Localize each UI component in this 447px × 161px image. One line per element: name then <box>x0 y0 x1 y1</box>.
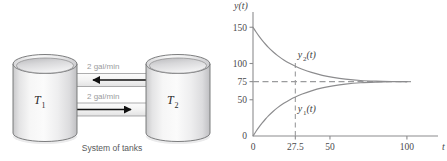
diagram-caption: System of tanks <box>82 143 142 153</box>
y-axis-tick-label: 150 <box>233 23 248 33</box>
curve-y2 <box>253 27 407 81</box>
pipe-top-flow-label: 2 gal/min <box>87 62 119 71</box>
pipe-top <box>71 74 153 87</box>
tank-left: T 1 <box>13 55 77 145</box>
y-axis-tick-label: 75 <box>238 77 248 87</box>
solution-plot-svg: 05075100150027.550100 y(t) t y 2 (t) y 1… <box>224 0 447 161</box>
tank-left-label-subscript: 1 <box>42 101 46 110</box>
tank-left-opening <box>17 58 74 73</box>
pipe-bottom <box>71 103 153 116</box>
y-axis-tick-label: 50 <box>238 95 248 105</box>
pipe-bottom-flow-label: 2 gal/min <box>87 92 119 101</box>
curve-annotation-y2: y 2 (t) <box>297 49 317 63</box>
tank-right: T 2 <box>146 55 210 145</box>
figure-container: T 1 T 2 2 gal/min 2 gal/min System of ta… <box>0 0 447 161</box>
y-axis-tick-label: 100 <box>233 59 248 69</box>
x-axis-label: t <box>442 141 445 152</box>
x-axis-tick-label: 100 <box>400 142 415 152</box>
tank-right-label-subscript: 2 <box>175 101 179 110</box>
curve-label-y1-suffix: (t) <box>306 103 316 115</box>
tank-diagram-panel: T 1 T 2 2 gal/min 2 gal/min System of ta… <box>0 0 224 161</box>
tank-right-opening <box>150 58 207 73</box>
y-axis-tick-label: 0 <box>242 131 247 141</box>
curve-label-y2: y <box>297 49 303 60</box>
curve-annotation-y1: y 1 (t) <box>297 103 317 117</box>
x-axis-tick-label: 27.5 <box>287 142 304 152</box>
plot-axes <box>250 12 439 140</box>
curve-label-y2-suffix: (t) <box>306 49 316 61</box>
solution-plot-panel: 05075100150027.550100 y(t) t y 2 (t) y 1… <box>224 0 447 161</box>
x-axis-tick-label: 0 <box>251 142 256 152</box>
tank-diagram-svg: T 1 T 2 2 gal/min 2 gal/min System of ta… <box>0 0 224 161</box>
plot-dashed-lines <box>253 61 412 136</box>
curve-label-y1: y <box>297 103 303 114</box>
curve-y1 <box>253 82 407 136</box>
y-axis-label: y(t) <box>233 0 249 12</box>
x-axis-tick-label: 50 <box>325 142 335 152</box>
